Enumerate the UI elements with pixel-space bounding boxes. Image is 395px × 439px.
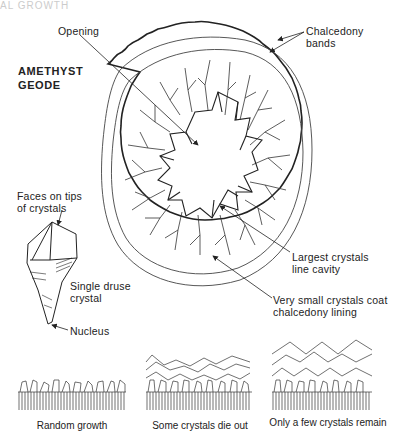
crystal-radiating-lines xyxy=(125,60,290,255)
small-crystals-label: Very small crystals coat chalcedony lini… xyxy=(273,294,388,318)
faces-line1: Faces on tips xyxy=(17,190,82,202)
largest-crystals-arrow xyxy=(220,206,290,252)
largest-crystals-line2: line cavity xyxy=(292,263,369,275)
growth-stage-few-remain xyxy=(272,340,372,410)
faces-line2: of crystals xyxy=(17,202,82,214)
caption-random-growth: Random growth xyxy=(22,420,122,431)
geode-title-line1: AMETHYST xyxy=(18,64,83,78)
largest-crystals-label: Largest crystals line cavity xyxy=(292,251,369,275)
largest-crystals-line1: Largest crystals xyxy=(292,251,369,263)
nucleus-label: Nucleus xyxy=(70,325,109,337)
single-druse-line2: crystal xyxy=(70,292,131,304)
small-crystals-line2: chalcedony lining xyxy=(273,306,388,318)
chalcedony-label-line1: Chalcedony xyxy=(306,25,363,37)
opening-arrow xyxy=(80,35,198,145)
single-druse-crystal xyxy=(27,222,77,324)
small-crystals-line1: Very small crystals coat xyxy=(273,294,388,306)
chalcedony-label-line2: bands xyxy=(306,37,363,49)
geode-title: AMETHYST GEODE xyxy=(18,64,83,92)
chalcedony-arrow-2 xyxy=(270,32,304,52)
chalcedony-label: Chalcedony bands xyxy=(306,25,363,49)
opening-label: Opening xyxy=(58,25,99,37)
geode-title-line2: GEODE xyxy=(18,78,83,92)
geode-outer-rim xyxy=(108,22,302,221)
nucleus-arrow xyxy=(52,325,68,330)
caption-some-die-out: Some crystals die out xyxy=(140,420,260,431)
single-druse-label: Single druse crystal xyxy=(70,280,131,304)
growth-stage-random xyxy=(18,380,126,410)
single-druse-line1: Single druse xyxy=(70,280,131,292)
growth-stage-some-die xyxy=(146,355,252,410)
faces-label: Faces on tips of crystals xyxy=(17,190,82,214)
small-crystals-arrow xyxy=(213,256,272,298)
chalcedony-arrow-1 xyxy=(278,32,304,40)
caption-few-remain: Only a few crystals remain xyxy=(264,417,392,428)
central-cavity xyxy=(158,92,262,218)
